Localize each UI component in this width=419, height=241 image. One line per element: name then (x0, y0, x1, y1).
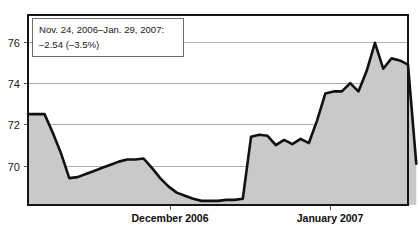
chart-container: 70727476 December 2006 January 2007 Nov.… (0, 0, 419, 241)
chart-canvas: 70727476 December 2006 January 2007 Nov.… (0, 0, 419, 241)
y-axis-tick-label-74: 74 (8, 78, 20, 90)
change-callout: Nov. 24, 2006–Jan. 29, 2007: –2.54 (–3.5… (33, 19, 184, 57)
x-axis-label-january: January 2007 (297, 212, 364, 224)
change-callout-line1: Nov. 24, 2006–Jan. 29, 2007: (39, 24, 164, 35)
y-axis-tick-label-76: 76 (8, 37, 20, 49)
y-axis-tick-label-72: 72 (8, 119, 20, 131)
change-callout-line2: –2.54 (–3.5%) (39, 39, 99, 50)
y-axis-tick-labels: 70727476 (8, 37, 20, 173)
x-axis-label-december: December 2006 (131, 212, 208, 224)
y-axis-tick-label-70: 70 (8, 161, 20, 173)
